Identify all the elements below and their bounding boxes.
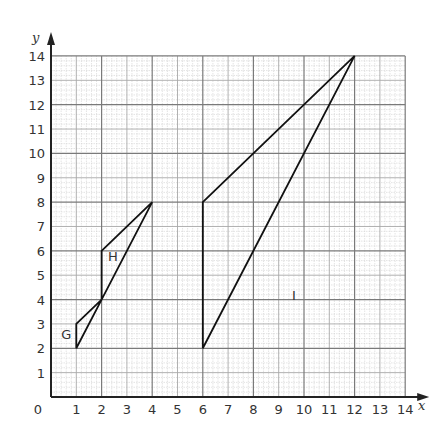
y-tick-label: 5	[37, 268, 45, 283]
x-tick-label: 5	[173, 402, 181, 417]
x-tick-label: 9	[275, 402, 283, 417]
shape-label-i: I	[292, 288, 296, 303]
y-tick-label: 13	[28, 73, 45, 88]
x-axis-label: x	[418, 398, 426, 413]
x-axis-ticks: 01234567891011121314	[34, 402, 414, 417]
y-axis-arrow-icon	[47, 32, 55, 45]
y-axis-ticks: 1234567891011121314	[28, 49, 45, 381]
shape-label-h: H	[108, 249, 118, 264]
y-tick-label: 4	[37, 293, 45, 308]
x-tick-label: 0	[34, 402, 42, 417]
y-tick-label: 10	[28, 146, 45, 161]
x-tick-label: 6	[199, 402, 207, 417]
coordinate-grid-chart: 01234567891011121314 1234567891011121314…	[0, 0, 433, 438]
y-tick-label: 8	[37, 195, 45, 210]
y-tick-label: 6	[37, 244, 45, 259]
x-tick-label: 14	[397, 402, 414, 417]
x-tick-label: 8	[249, 402, 257, 417]
y-tick-label: 11	[28, 122, 45, 137]
y-tick-label: 7	[37, 219, 45, 234]
y-tick-label: 12	[28, 98, 45, 113]
x-tick-label: 3	[123, 402, 131, 417]
y-tick-label: 14	[28, 49, 45, 64]
x-tick-label: 1	[72, 402, 80, 417]
x-tick-label: 7	[224, 402, 232, 417]
y-tick-label: 1	[37, 366, 45, 381]
shape-label-g: G	[61, 327, 71, 342]
y-axis-label: y	[31, 30, 40, 45]
y-tick-label: 2	[37, 341, 45, 356]
x-tick-label: 11	[321, 402, 338, 417]
x-tick-label: 2	[97, 402, 105, 417]
x-tick-label: 12	[346, 402, 363, 417]
y-tick-label: 9	[37, 171, 45, 186]
x-tick-label: 4	[148, 402, 156, 417]
y-tick-label: 3	[37, 317, 45, 332]
x-tick-label: 13	[372, 402, 389, 417]
unit-grid	[51, 56, 405, 397]
x-tick-label: 10	[296, 402, 313, 417]
